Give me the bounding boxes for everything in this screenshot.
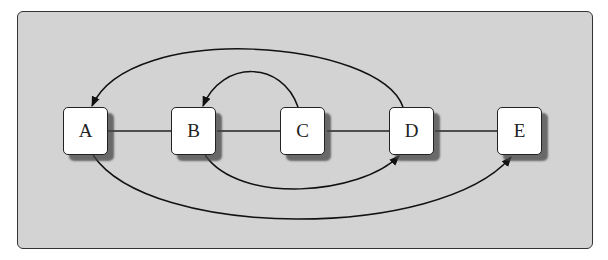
node-a: A [63, 107, 108, 155]
arc-c-to-b [203, 72, 298, 107]
node-c: C [280, 107, 325, 155]
node-label: D [405, 120, 419, 142]
node-d: D [389, 107, 434, 155]
arc-d-to-a [92, 49, 403, 107]
node-b: B [171, 107, 216, 155]
arc-a-to-e [93, 155, 511, 219]
node-e: E [497, 107, 542, 155]
node-label: C [296, 120, 309, 142]
arc-b-to-d [205, 155, 399, 189]
node-label: B [187, 120, 200, 142]
node-label: E [514, 120, 526, 142]
node-label: A [79, 120, 93, 142]
